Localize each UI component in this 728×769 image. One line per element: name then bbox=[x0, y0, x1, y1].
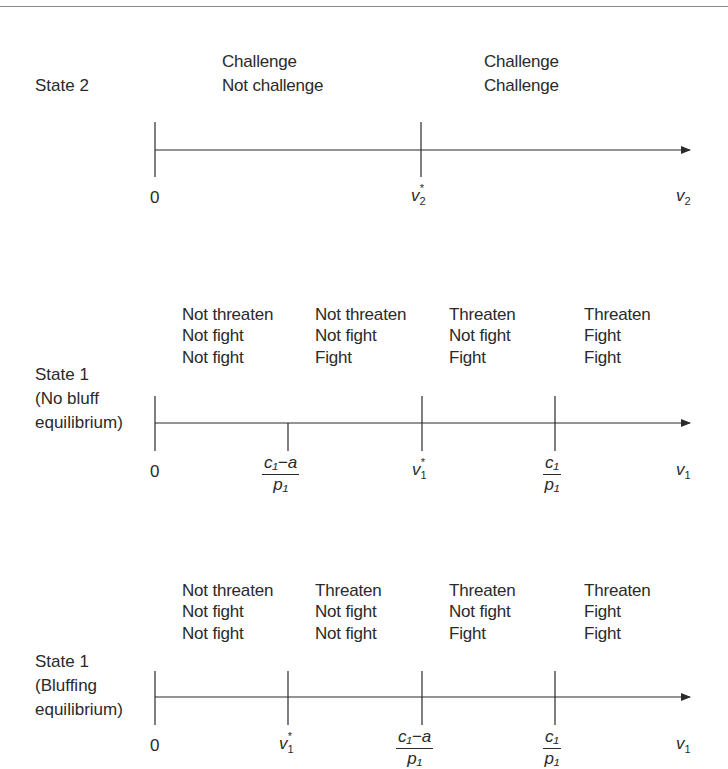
var-sub: 1 bbox=[685, 469, 691, 481]
strategy-line: Not fight bbox=[315, 325, 406, 346]
strategy-column: Threaten Fight Fight bbox=[584, 304, 650, 370]
strategy-line: Not fight bbox=[182, 325, 273, 346]
strategy-line: Not fight bbox=[449, 601, 515, 622]
tick-label-c1-over-p1: c₁ p₁ bbox=[543, 453, 561, 495]
strategy-column: Not threaten Not fight Not fight bbox=[182, 304, 273, 370]
strategy-column: Not threaten Not fight Not fight bbox=[182, 580, 273, 646]
panel-label-line: (Bluffing bbox=[35, 674, 123, 698]
strategy-column: Not threaten Not fight Fight bbox=[315, 304, 406, 370]
strategy-line: Fight bbox=[449, 346, 515, 370]
tick-label-v2-star: v2* bbox=[411, 184, 424, 207]
var-sup: * bbox=[421, 456, 425, 468]
panel-label: State 1 (Bluffing equilibrium) bbox=[35, 650, 123, 722]
strategy-line: Not challenge bbox=[222, 74, 323, 98]
tick-label-zero: 0 bbox=[150, 186, 159, 210]
var-main: v bbox=[676, 734, 685, 753]
strategy-line: Not threaten bbox=[182, 580, 273, 601]
tick-label-c1-minus-a-over-p1: c₁−a p₁ bbox=[396, 727, 433, 769]
panel-label: State 1 (No bluff equilibrium) bbox=[35, 363, 123, 435]
strategy-line: Threaten bbox=[584, 304, 650, 325]
panel-label-line: equilibrium) bbox=[35, 698, 123, 722]
axis-state2 bbox=[155, 122, 690, 177]
panel-label-line: (No bluff bbox=[35, 387, 123, 411]
panel-label-line: equilibrium) bbox=[35, 411, 123, 435]
tick-label-zero: 0 bbox=[150, 734, 159, 758]
fraction-numerator: c₁−a bbox=[396, 727, 433, 749]
panel-label-line: State 1 bbox=[35, 363, 123, 387]
strategy-line: Challenge bbox=[484, 50, 559, 74]
tick-label-c1-minus-a-over-p1: c₁−a p₁ bbox=[262, 453, 299, 495]
tick-label-zero: 0 bbox=[150, 460, 159, 484]
strategy-column: Challenge Not challenge bbox=[222, 50, 323, 98]
fraction-numerator: c₁ bbox=[543, 453, 561, 475]
strategy-line: Not threaten bbox=[315, 304, 406, 325]
strategy-column: Threaten Not fight Fight bbox=[449, 580, 515, 646]
strategy-line: Fight bbox=[584, 346, 650, 370]
var-main: v bbox=[279, 734, 288, 753]
fraction-denominator: p₁ bbox=[545, 475, 560, 495]
strategy-line: Threaten bbox=[449, 580, 515, 601]
fraction-denominator: p₁ bbox=[273, 475, 288, 495]
var-sub: 1 bbox=[288, 743, 294, 755]
strategy-line: Not fight bbox=[182, 601, 273, 622]
fraction-denominator: p₁ bbox=[545, 749, 560, 769]
strategy-line: Not fight bbox=[182, 346, 273, 370]
var-sup: * bbox=[420, 182, 424, 194]
strategy-line: Fight bbox=[449, 622, 515, 646]
axis-label-v1: v1 bbox=[676, 734, 691, 755]
tick-label-v1-star: v1* bbox=[412, 458, 425, 481]
fraction-numerator: c₁ bbox=[543, 727, 561, 749]
strategy-column: Threaten Not fight Fight bbox=[449, 304, 515, 370]
var-main: v bbox=[412, 460, 421, 479]
strategy-line: Fight bbox=[584, 325, 650, 346]
var-sub: 2 bbox=[685, 195, 691, 207]
strategy-line: Fight bbox=[584, 622, 650, 646]
strategy-column: Threaten Fight Fight bbox=[584, 580, 650, 646]
strategy-line: Challenge bbox=[222, 50, 323, 74]
strategy-line: Fight bbox=[315, 346, 406, 370]
fraction: c₁−a p₁ bbox=[262, 453, 299, 495]
tick-label-c1-over-p1: c₁ p₁ bbox=[543, 727, 561, 769]
strategy-line: Threaten bbox=[449, 304, 515, 325]
var-main: v bbox=[411, 186, 420, 205]
strategy-line: Not fight bbox=[315, 622, 381, 646]
fraction: c₁ p₁ bbox=[543, 453, 561, 495]
tick-label-v1-star: v1* bbox=[279, 732, 292, 755]
fraction: c₁−a p₁ bbox=[396, 727, 433, 769]
strategy-column: Challenge Challenge bbox=[484, 50, 559, 98]
var-sub: 1 bbox=[421, 469, 427, 481]
strategy-line: Threaten bbox=[584, 580, 650, 601]
fraction-numerator: c₁−a bbox=[262, 453, 299, 475]
var-main: v bbox=[676, 186, 685, 205]
strategy-line: Not fight bbox=[315, 601, 381, 622]
fraction: c₁ p₁ bbox=[543, 727, 561, 769]
strategy-line: Challenge bbox=[484, 74, 559, 98]
panel-label-line: State 1 bbox=[35, 650, 123, 674]
axis-label-v2: v2 bbox=[676, 186, 691, 207]
strategy-line: Not threaten bbox=[182, 304, 273, 325]
var-sub: 2 bbox=[420, 195, 426, 207]
strategy-line: Not fight bbox=[182, 622, 273, 646]
axis-state1-bluffing bbox=[155, 671, 690, 725]
panel-label: State 2 bbox=[35, 74, 89, 98]
axis-label-v1: v1 bbox=[676, 460, 691, 481]
strategy-line: Not fight bbox=[449, 325, 515, 346]
strategy-line: Fight bbox=[584, 601, 650, 622]
var-sup: * bbox=[288, 730, 292, 742]
strategy-column: Threaten Not fight Not fight bbox=[315, 580, 381, 646]
var-sub: 1 bbox=[685, 743, 691, 755]
strategy-line: Threaten bbox=[315, 580, 381, 601]
panel-label-line: State 2 bbox=[35, 74, 89, 98]
var-main: v bbox=[676, 460, 685, 479]
fraction-denominator: p₁ bbox=[407, 749, 422, 769]
axis-state1-no-bluff bbox=[155, 396, 690, 451]
